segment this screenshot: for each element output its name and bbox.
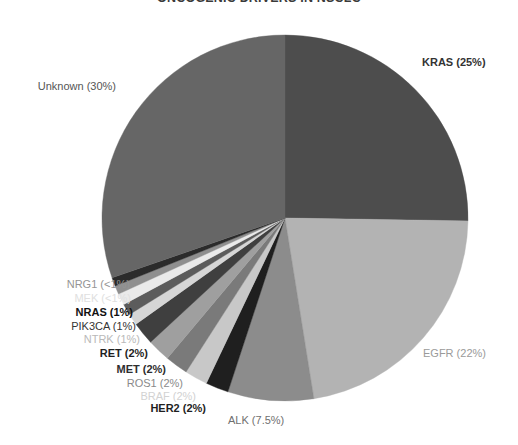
pie-label-her2: HER2 (2%) xyxy=(0,403,206,414)
pie-label-egfr: EGFR (22%) xyxy=(423,348,486,359)
pie-label-nras: NRAS (1%) xyxy=(0,307,133,318)
pie-label-mek: MEK (<1%) xyxy=(0,293,131,304)
pie-label-ntrk: NTRK (1%) xyxy=(0,334,140,345)
pie-label-ret: RET (2%) xyxy=(0,348,148,359)
pie-label-braf: BRAF (2%) xyxy=(0,391,196,402)
pie-label-met: MET (2%) xyxy=(0,364,166,375)
pie-label-nrg1: NRG1 (<1%) xyxy=(0,279,130,290)
pie-label-unknown: Unknown (30%) xyxy=(0,81,116,92)
pie-chart-figure: ONCOGENIC DRIVERS IN NSCLC KRAS (25%)EGF… xyxy=(0,0,518,445)
pie-label-ros1: ROS1 (2%) xyxy=(0,378,183,389)
pie-label-kras: KRAS (25%) xyxy=(422,57,486,68)
pie-label-alk: ALK (7.5%) xyxy=(228,415,284,426)
pie-label-pik3ca: PIK3CA (1%) xyxy=(0,321,136,332)
pie-slice-egfr xyxy=(285,218,468,399)
